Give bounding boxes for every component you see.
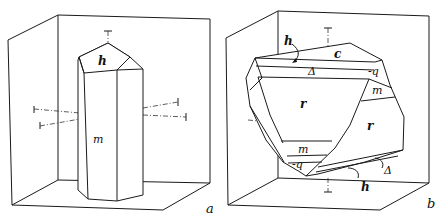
face-label-m-right: m [372,84,382,97]
face-label-h-bottom: h [361,180,370,194]
face-label-delta-bottom: Δ [383,164,392,177]
panel-b: h c Δ -q m r r m -q Δ h b [226,11,435,211]
crystal-b [246,43,404,176]
face-label-c: c [334,47,342,61]
face-label-m: m [93,133,103,146]
face-label-h: h [98,54,107,68]
panel-a-caption: a [206,201,214,216]
panel-a: h m a [8,15,214,216]
face-label-m-bottom: m [298,143,308,156]
panel-b-caption: b [427,196,435,211]
face-label-q-bottom: -q [292,158,303,171]
face-label-h-top: h [284,34,293,48]
crystal-diagram: h m a [0,0,443,219]
face-label-q-top: -q [368,65,379,78]
crystal-a [78,43,143,201]
face-label-delta-top: Δ [307,65,316,78]
